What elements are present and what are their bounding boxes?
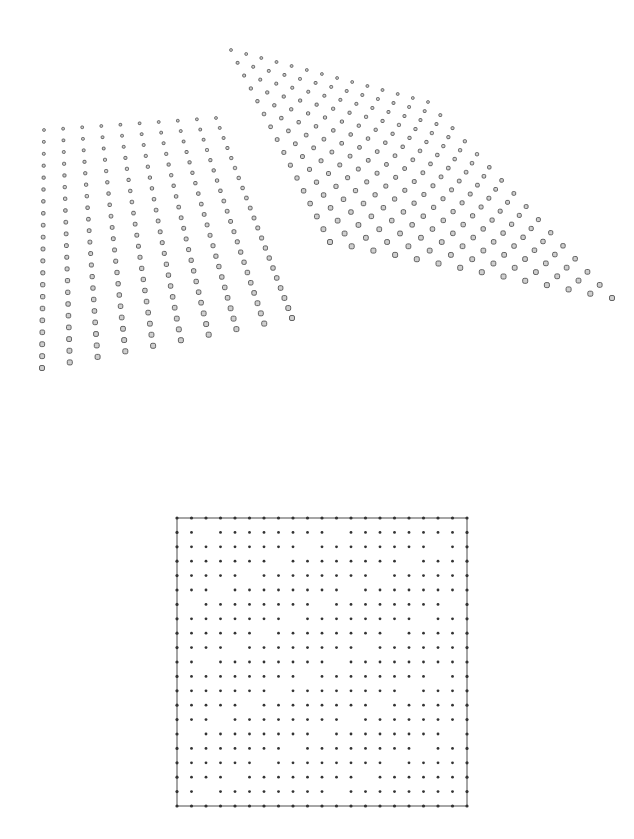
lattice-point — [292, 589, 295, 592]
lattice-point — [292, 761, 295, 764]
sample-point — [256, 226, 260, 230]
lattice-point — [219, 560, 222, 563]
lattice-point — [335, 560, 338, 563]
sample-point — [271, 266, 275, 270]
lattice-point — [277, 718, 280, 721]
sample-point — [323, 94, 326, 97]
lattice-point — [205, 675, 208, 678]
lattice-point — [451, 574, 454, 577]
sample-point — [42, 152, 45, 155]
lattice-point — [408, 531, 411, 534]
lattice-point — [379, 790, 382, 793]
sample-point — [369, 214, 374, 219]
sample-point — [506, 200, 510, 204]
sample-point — [403, 188, 407, 192]
sample-point — [529, 226, 533, 230]
sample-point — [81, 126, 84, 129]
sample-point — [314, 82, 317, 85]
sample-point — [327, 172, 331, 176]
sample-point — [315, 214, 320, 219]
sample-point — [366, 137, 369, 140]
lattice-point — [234, 589, 237, 592]
lattice-point — [190, 790, 193, 793]
sample-point — [42, 176, 45, 179]
sample-point — [225, 209, 229, 213]
sample-point — [149, 332, 154, 337]
sample-point — [83, 160, 86, 163]
sample-point — [355, 102, 358, 105]
sample-point — [439, 175, 443, 179]
sample-point — [165, 152, 168, 155]
lattice-point — [321, 776, 324, 779]
sample-point — [345, 90, 348, 93]
lattice-point — [306, 661, 309, 664]
sample-point — [211, 244, 215, 248]
sample-point — [189, 258, 193, 262]
lattice-point — [393, 617, 396, 620]
lattice-point — [393, 661, 396, 664]
sample-point — [365, 180, 369, 184]
sample-point — [140, 133, 143, 136]
sample-point — [188, 161, 191, 164]
lattice-point — [393, 603, 396, 606]
lattice-point — [190, 718, 193, 721]
lattice-point — [393, 747, 396, 750]
sample-point — [314, 180, 318, 184]
sample-point — [273, 104, 276, 107]
lattice-point — [306, 560, 309, 563]
sample-point — [339, 98, 342, 101]
lattice-point — [292, 574, 295, 577]
lattice-point — [422, 589, 425, 592]
lattice-point — [437, 589, 440, 592]
sample-point — [67, 348, 72, 353]
sample-point — [230, 49, 233, 52]
sample-point — [40, 318, 45, 323]
lattice-point — [422, 646, 425, 649]
sample-point — [306, 69, 309, 72]
sample-point — [476, 183, 480, 187]
sample-point — [148, 321, 153, 326]
sample-point — [335, 218, 340, 223]
sample-point — [412, 201, 416, 205]
sample-point — [321, 227, 326, 232]
lattice-point — [277, 804, 280, 807]
lattice-point — [190, 804, 193, 807]
lattice-point — [234, 545, 237, 548]
lattice-point — [408, 589, 411, 592]
lattice-point — [277, 516, 280, 519]
sample-point — [330, 150, 334, 154]
sample-point — [197, 192, 200, 195]
sample-point — [42, 212, 45, 215]
lattice-point — [175, 588, 178, 591]
sample-point — [361, 201, 365, 205]
sample-point — [234, 327, 239, 332]
sample-point — [297, 121, 300, 124]
sample-point — [63, 162, 66, 165]
lattice-point — [292, 733, 295, 736]
lattice-point — [465, 790, 468, 793]
lattice-point — [451, 689, 454, 692]
sample-point — [517, 213, 521, 217]
lattice-point — [335, 804, 338, 807]
lattice-point — [465, 689, 468, 692]
lattice-point — [451, 560, 454, 563]
lattice-point — [248, 560, 251, 563]
lattice-point — [379, 733, 382, 736]
sample-point — [262, 112, 265, 115]
lattice-point — [277, 617, 280, 620]
sample-point — [231, 316, 236, 321]
sample-point — [260, 57, 263, 60]
lattice-point — [292, 661, 295, 664]
sample-point — [418, 149, 421, 152]
lattice-point — [379, 531, 382, 534]
lattice-point — [233, 516, 236, 519]
sample-point — [346, 176, 350, 180]
sample-point — [340, 120, 343, 123]
lattice-point — [408, 704, 411, 707]
sample-point — [532, 248, 537, 253]
sample-point — [166, 273, 170, 277]
sample-point — [393, 154, 397, 158]
lattice-canvas — [0, 500, 634, 839]
lattice-point — [465, 675, 468, 678]
lattice-point — [350, 531, 353, 534]
